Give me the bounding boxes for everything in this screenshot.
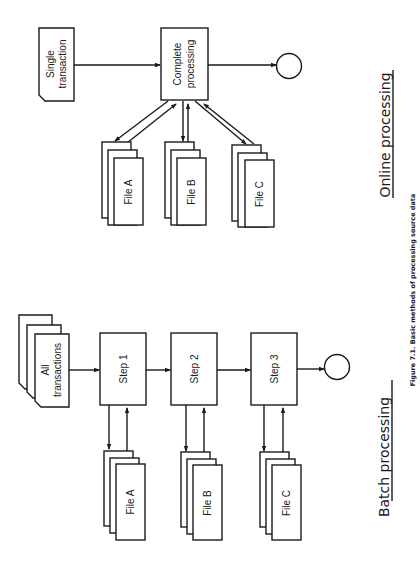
batch-file-c-stack: File C bbox=[260, 452, 301, 540]
step-2-label: Step 2 bbox=[189, 354, 200, 383]
online-file-a-stack: File A bbox=[102, 142, 143, 225]
batch-file-b-label: File B bbox=[202, 490, 213, 516]
step-3-label: Step 3 bbox=[269, 354, 280, 383]
batch-file-a-stack: File A bbox=[104, 451, 145, 540]
online-file-b-label: File B bbox=[186, 179, 197, 205]
batch-file-a-label: File A bbox=[125, 489, 136, 514]
single-transaction-card: Single transaction bbox=[39, 28, 74, 101]
complete-processing-box: Complete processing bbox=[161, 28, 208, 100]
batch-processing-diagram: All transactions Step 1 Step 2 Step 3 bbox=[19, 315, 392, 540]
online-file-connectors bbox=[115, 101, 254, 144]
batch-processing-title: Batch processing bbox=[376, 397, 392, 517]
complete-processing-label-2: processing bbox=[185, 40, 196, 88]
step-3-box: Step 3 bbox=[251, 333, 297, 405]
batch-file-c-label: File C bbox=[281, 490, 292, 516]
complete-processing-label-1: Complete bbox=[172, 42, 183, 85]
figure-caption: Figure 7.1. Basic methods of processing … bbox=[409, 194, 417, 387]
batch-terminator-circle bbox=[325, 355, 350, 380]
all-transactions-label-2: transactions bbox=[52, 343, 63, 397]
all-transactions-label-1: All bbox=[40, 364, 51, 375]
step-1-box: Step 1 bbox=[100, 333, 146, 405]
online-processing-title: Online processing bbox=[377, 72, 393, 197]
online-file-b-stack: File B bbox=[165, 142, 206, 225]
batch-file-b-stack: File B bbox=[181, 452, 222, 540]
figure-canvas: Single transaction Complete processing F… bbox=[0, 0, 420, 566]
online-file-c-label: File C bbox=[254, 181, 265, 207]
step-1-label: Step 1 bbox=[118, 354, 129, 383]
batch-file-connectors bbox=[109, 405, 283, 453]
online-terminator-circle bbox=[277, 54, 302, 79]
single-transaction-label-1: Single bbox=[45, 50, 56, 78]
all-transactions-stack: All transactions bbox=[19, 315, 69, 407]
single-transaction-label-2: transaction bbox=[57, 40, 68, 89]
step-2-box: Step 2 bbox=[171, 333, 217, 405]
online-file-c-stack: File C bbox=[232, 145, 274, 227]
online-processing-diagram: Single transaction Complete processing F… bbox=[39, 28, 393, 227]
online-file-a-label: File A bbox=[123, 179, 134, 204]
